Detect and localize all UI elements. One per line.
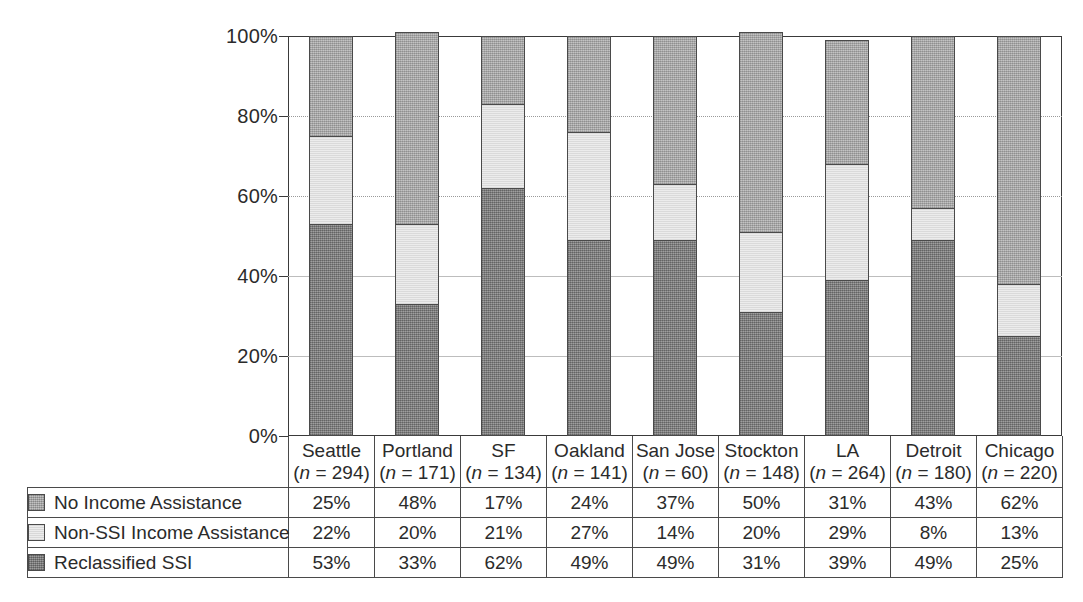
city-sample-size: (n = 134) xyxy=(461,462,546,483)
legend-entry-inner: No Income Assistance xyxy=(28,492,288,514)
city-sample-size: (n = 171) xyxy=(375,462,460,483)
bar-column xyxy=(911,36,955,436)
bar-segment xyxy=(739,312,783,436)
column-header-city: LA(n = 264) xyxy=(805,436,891,488)
table-cell-value: 17% xyxy=(461,488,547,518)
city-sample-size: (n = 264) xyxy=(805,462,890,483)
city-sample-size: (n = 141) xyxy=(547,462,632,483)
bar-segment xyxy=(309,36,353,136)
column-header-city: SF(n = 134) xyxy=(461,436,547,488)
y-tick-80 xyxy=(279,116,288,117)
bar-segment xyxy=(309,136,353,224)
bar-segment xyxy=(739,32,783,232)
bar-segment xyxy=(825,164,869,280)
table-header: Seattle(n = 294)Portland(n = 171)SF(n = … xyxy=(28,436,1063,488)
table-header-row: Seattle(n = 294)Portland(n = 171)SF(n = … xyxy=(28,436,1063,488)
table-cell-value: 29% xyxy=(805,518,891,548)
bar-segment xyxy=(997,336,1041,436)
bar-segment xyxy=(739,232,783,312)
bar-column xyxy=(309,36,353,436)
bar-column xyxy=(997,36,1041,436)
table-cell-value: 31% xyxy=(719,548,805,578)
bar-segment xyxy=(395,224,439,304)
data-table-wrapper: Seattle(n = 294)Portland(n = 171)SF(n = … xyxy=(27,436,1062,576)
bar-column xyxy=(481,36,525,436)
bar-stack xyxy=(739,32,783,436)
bar-series-group xyxy=(288,36,1062,436)
bar-segment xyxy=(309,224,353,436)
y-axis-label-60: 60% xyxy=(158,185,278,208)
legend-entry-inner: Reclassified SSI xyxy=(28,552,288,574)
bar-segment xyxy=(911,36,955,208)
bar-stack xyxy=(997,36,1041,436)
bar-segment xyxy=(567,132,611,240)
bar-segment xyxy=(395,32,439,224)
table-cell-value: 27% xyxy=(547,518,633,548)
city-sample-size: (n = 294) xyxy=(289,462,374,483)
data-table: Seattle(n = 294)Portland(n = 171)SF(n = … xyxy=(27,436,1063,578)
bar-segment xyxy=(911,208,955,240)
y-tick-20 xyxy=(279,356,288,357)
y-tick-40 xyxy=(279,276,288,277)
legend-label: No Income Assistance xyxy=(54,492,242,514)
table-cell-value: 20% xyxy=(375,518,461,548)
table-cell-value: 22% xyxy=(289,518,375,548)
table-row: No Income Assistance25%48%17%24%37%50%31… xyxy=(28,488,1063,518)
plot-area xyxy=(288,36,1062,436)
column-header-city: Oakland(n = 141) xyxy=(547,436,633,488)
city-name: Portland xyxy=(375,440,460,461)
table-cell-value: 49% xyxy=(633,548,719,578)
table-cell-value: 13% xyxy=(977,518,1063,548)
bar-segment xyxy=(481,36,525,104)
table-cell-value: 50% xyxy=(719,488,805,518)
header-spacer xyxy=(28,436,289,488)
bar-stack xyxy=(395,32,439,436)
bar-stack xyxy=(567,36,611,436)
dark-gray-swatch-icon xyxy=(28,554,45,571)
table-cell-value: 48% xyxy=(375,488,461,518)
y-axis-label-100: 100% xyxy=(158,25,278,48)
y-axis-label-80: 80% xyxy=(158,105,278,128)
table-cell-value: 33% xyxy=(375,548,461,578)
bar-stack xyxy=(481,36,525,436)
table-cell-value: 62% xyxy=(977,488,1063,518)
y-tick-100 xyxy=(279,36,288,37)
column-header-city: Stockton(n = 148) xyxy=(719,436,805,488)
city-sample-size: (n = 60) xyxy=(633,462,718,483)
table-cell-value: 14% xyxy=(633,518,719,548)
bar-column xyxy=(653,36,697,436)
legend-label: Non-SSI Income Assistance xyxy=(54,522,290,544)
bar-column xyxy=(567,36,611,436)
city-name: San Jose xyxy=(633,440,718,461)
bar-segment xyxy=(825,280,869,436)
table-cell-value: 8% xyxy=(891,518,977,548)
bar-segment xyxy=(481,188,525,436)
bar-column xyxy=(739,36,783,436)
bar-stack xyxy=(911,36,955,436)
bar-column xyxy=(395,36,439,436)
column-header-city: Seattle(n = 294) xyxy=(289,436,375,488)
table-cell-value: 25% xyxy=(977,548,1063,578)
bar-segment xyxy=(997,284,1041,336)
table-cell-value: 43% xyxy=(891,488,977,518)
city-name: SF xyxy=(461,440,546,461)
column-header-city: Chicago(n = 220) xyxy=(977,436,1063,488)
city-name: LA xyxy=(805,440,890,461)
legend-entry: No Income Assistance xyxy=(28,488,289,518)
column-header-city: Portland(n = 171) xyxy=(375,436,461,488)
bar-column xyxy=(825,36,869,436)
bar-segment xyxy=(567,36,611,132)
bar-segment xyxy=(395,304,439,436)
table-cell-value: 53% xyxy=(289,548,375,578)
table-row: Reclassified SSI53%33%62%49%49%31%39%49%… xyxy=(28,548,1063,578)
city-name: Oakland xyxy=(547,440,632,461)
city-sample-size: (n = 148) xyxy=(719,462,804,483)
table-cell-value: 62% xyxy=(461,548,547,578)
bar-segment xyxy=(825,40,869,164)
bar-segment xyxy=(653,184,697,240)
legend-entry: Non-SSI Income Assistance xyxy=(28,518,289,548)
bar-segment xyxy=(653,36,697,184)
bar-segment xyxy=(653,240,697,436)
light-gray-swatch-icon xyxy=(28,524,45,541)
bar-segment xyxy=(481,104,525,188)
